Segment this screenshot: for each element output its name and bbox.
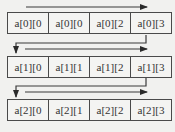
array-cell: a[0][2 — [90, 13, 131, 33]
array-row-0: a[0][0 a[0][0 a[0][2 a[0][3 — [7, 12, 172, 34]
array-row-2: a[2][0 a[2][1 a[2][2 a[2][3 — [7, 99, 172, 121]
array-cell: a[2][1 — [49, 100, 90, 120]
array-cell: a[1][0 — [8, 57, 49, 77]
array-cell: a[1][2 — [90, 57, 131, 77]
wrap-arrow-1-2 — [16, 78, 146, 97]
array-cell: a[2][3 — [131, 100, 171, 120]
array-cell: a[1][3 — [131, 57, 171, 77]
array-cell: a[0][3 — [131, 13, 171, 33]
wrap-arrow-0-1 — [16, 35, 146, 53]
array-cell: a[1][1 — [49, 57, 90, 77]
row-major-order-diagram: a[0][0 a[0][0 a[0][2 a[0][3 a[1][0 a[1][… — [0, 0, 175, 132]
array-cell: a[2][0 — [8, 100, 49, 120]
array-cell: a[0][0 — [8, 13, 49, 33]
array-row-1: a[1][0 a[1][1 a[1][2 a[1][3 — [7, 56, 172, 78]
array-cell: a[2][2 — [90, 100, 131, 120]
array-cell: a[0][0 — [49, 13, 90, 33]
